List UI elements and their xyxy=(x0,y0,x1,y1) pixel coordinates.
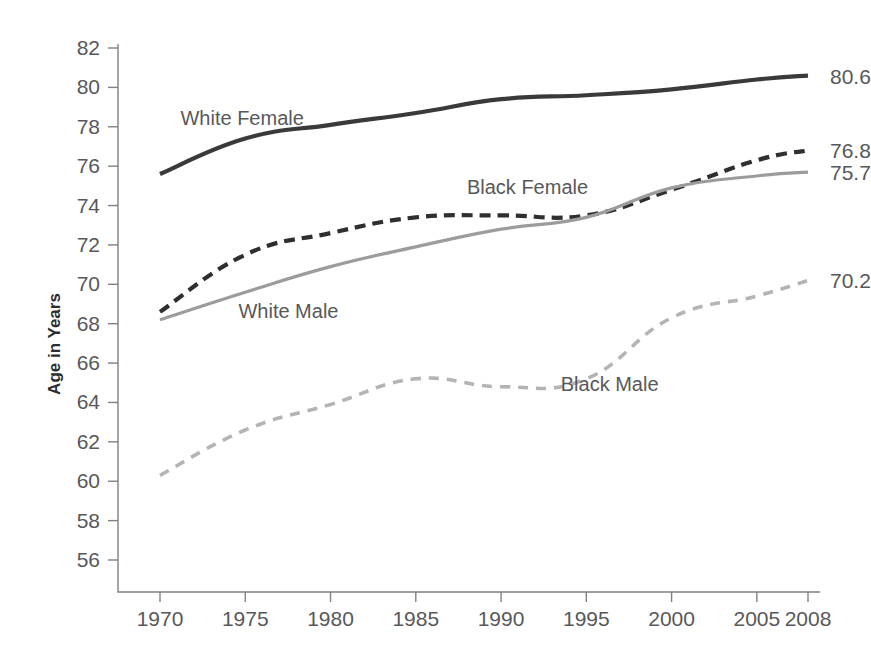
x-tick-label: 2008 xyxy=(785,607,832,630)
series-lines-group xyxy=(160,76,808,476)
y-tick-label: 58 xyxy=(77,509,100,532)
series-label-white-female: White Female xyxy=(180,107,303,129)
y-tick-label: 66 xyxy=(77,351,100,374)
x-tick-label: 1995 xyxy=(563,607,610,630)
end-value-black-male: 70.2 xyxy=(830,269,871,292)
end-value-white-female: 80.6 xyxy=(830,65,871,88)
series-label-white-male: White Male xyxy=(238,300,338,322)
x-tick-label: 2005 xyxy=(733,607,780,630)
y-axis-tick-group: 5658606264666870727476788082 xyxy=(77,36,118,571)
life-expectancy-line-chart: 5658606264666870727476788082 19701975198… xyxy=(0,0,871,667)
y-tick-label: 78 xyxy=(77,115,100,138)
y-tick-label: 82 xyxy=(77,36,100,59)
x-tick-label: 1970 xyxy=(137,607,184,630)
x-tick-label: 1975 xyxy=(222,607,269,630)
x-tick-label: 2000 xyxy=(648,607,695,630)
x-tick-label: 1990 xyxy=(478,607,525,630)
y-tick-label: 70 xyxy=(77,272,100,295)
end-value-white-male: 75.7 xyxy=(830,161,871,184)
end-value-black-female: 76.8 xyxy=(830,139,871,162)
series-label-black-male: Black Male xyxy=(561,373,659,395)
end-value-label-group: 80.676.875.770.2 xyxy=(830,65,871,293)
y-tick-label: 56 xyxy=(77,548,100,571)
y-tick-label: 60 xyxy=(77,469,100,492)
y-tick-label: 74 xyxy=(77,194,101,217)
series-label-black-female: Black Female xyxy=(467,176,588,198)
x-tick-label: 1980 xyxy=(307,607,354,630)
chart-container: 5658606264666870727476788082 19701975198… xyxy=(0,0,871,667)
y-axis-title: Age in Years xyxy=(45,293,64,395)
y-tick-label: 80 xyxy=(77,75,100,98)
y-tick-label: 68 xyxy=(77,312,100,335)
y-tick-label: 76 xyxy=(77,154,100,177)
y-tick-label: 64 xyxy=(77,390,101,413)
x-axis-tick-group: 197019751980198519901995200020052008 xyxy=(137,592,832,630)
y-tick-label: 72 xyxy=(77,233,100,256)
x-tick-label: 1985 xyxy=(392,607,439,630)
y-tick-label: 62 xyxy=(77,430,100,453)
